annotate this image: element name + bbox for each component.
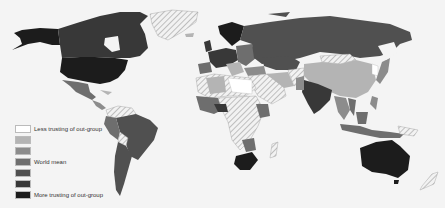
legend-swatch-3 [15, 158, 31, 166]
region-tasmania [394, 180, 399, 184]
region-pakistan [296, 76, 304, 90]
region-central-america [92, 100, 106, 110]
region-indonesia [340, 124, 404, 138]
legend-item [15, 178, 103, 189]
legend-item: World mean [15, 156, 103, 167]
region-scandinavia [218, 22, 244, 46]
region-zambia-zimbabwe [242, 138, 256, 152]
region-southeast-asia [334, 96, 350, 120]
legend-label: Less trusting of out-group [34, 126, 102, 132]
region-balkans [226, 62, 244, 76]
legend-label: More trusting of out-group [34, 192, 103, 198]
region-madagascar [270, 142, 278, 158]
region-alaska [12, 28, 60, 50]
legend-item [15, 145, 103, 156]
legend-swatch-1 [15, 136, 31, 144]
legend-swatch-6 [15, 191, 31, 199]
legend-item [15, 167, 103, 178]
region-iberia [198, 62, 212, 74]
region-new-zealand [420, 172, 438, 190]
region-south-africa [234, 152, 258, 170]
legend-swatch-5 [15, 180, 31, 188]
region-usa [60, 57, 128, 84]
region-caribbean [100, 90, 112, 95]
region-vietnam [348, 98, 356, 116]
region-novaya-zemlya [268, 12, 290, 17]
legend-swatch-2 [15, 147, 31, 155]
legend-swatch-4 [15, 169, 31, 177]
region-iceland [185, 33, 194, 37]
legend-label: World mean [34, 159, 66, 165]
region-borneo [356, 112, 368, 124]
legend: Less trusting of out-group World mean Mo… [15, 123, 103, 200]
legend-item: Less trusting of out-group [15, 123, 103, 134]
region-korea [372, 64, 378, 76]
legend-swatch-0 [15, 125, 31, 133]
legend-item: More trusting of out-group [15, 189, 103, 200]
region-australia [360, 140, 410, 178]
region-uk [204, 40, 212, 52]
region-mexico [62, 80, 96, 100]
region-philippines [370, 96, 378, 110]
legend-item [15, 134, 103, 145]
region-canada [58, 12, 148, 58]
